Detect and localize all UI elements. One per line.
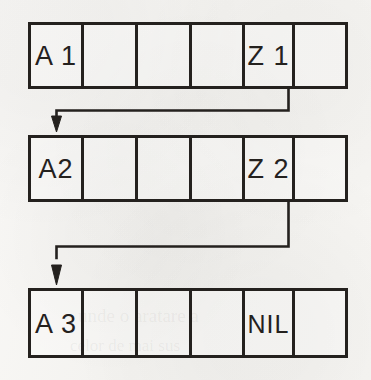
node-2-cell-2 bbox=[84, 138, 138, 199]
node-2-cell-3 bbox=[138, 138, 192, 199]
node-3-cell-3 bbox=[138, 291, 192, 355]
connector-1-path bbox=[57, 88, 289, 118]
node-1-cell-4 bbox=[192, 25, 245, 86]
node-1-cell-3 bbox=[138, 25, 192, 86]
node-2-pointer-label: Z 2 bbox=[247, 156, 289, 183]
connector-2 bbox=[52, 201, 289, 285]
node-1-pointer-label: Z 1 bbox=[247, 43, 289, 70]
list-node-1: A 1 Z 1 bbox=[28, 22, 348, 89]
connector-2-arrowhead-icon bbox=[52, 265, 62, 285]
connector-1 bbox=[52, 88, 289, 132]
node-1-pointer-cell: Z 1 bbox=[245, 25, 295, 86]
list-node-2: A2 Z 2 bbox=[28, 135, 348, 202]
connector-1-arrowhead-icon bbox=[52, 116, 62, 132]
node-3-null-label: NIL bbox=[248, 312, 290, 337]
node-2-cell-4 bbox=[192, 138, 245, 199]
node-2-cell-1-label: A2 bbox=[38, 156, 73, 183]
node-3-null-cell: NIL bbox=[245, 291, 295, 355]
node-3-cell-6 bbox=[295, 291, 345, 355]
node-1-cell-2 bbox=[84, 25, 138, 86]
node-1-cell-6 bbox=[295, 25, 345, 86]
list-node-3: A 3 NIL bbox=[28, 288, 348, 358]
node-2-cell-1: A2 bbox=[31, 138, 84, 199]
node-3-cell-4 bbox=[192, 291, 245, 355]
node-2-cell-6 bbox=[295, 138, 345, 199]
node-3-cell-2 bbox=[84, 291, 138, 355]
node-3-cell-1-label: A 3 bbox=[35, 311, 77, 338]
connector-2-path bbox=[57, 201, 289, 258]
node-2-pointer-cell: Z 2 bbox=[245, 138, 295, 199]
node-3-cell-1: A 3 bbox=[31, 291, 84, 355]
node-1-cell-1-label: A 1 bbox=[35, 43, 77, 70]
linked-list-diagram: unde o aratare a celor de mai sus A 1 Z … bbox=[0, 0, 371, 380]
node-1-cell-1: A 1 bbox=[31, 25, 84, 86]
